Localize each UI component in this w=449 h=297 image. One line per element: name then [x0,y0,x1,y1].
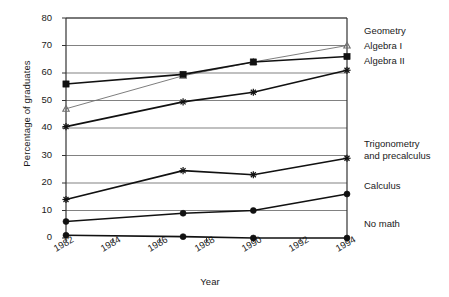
figure-caption [62,289,392,294]
data-point-no-math-1990 [250,235,256,241]
data-point-algebra-ii-1987 [179,98,186,105]
plot-area [0,0,449,297]
data-point-algebra-i-1994 [344,53,350,59]
data-point-no-math-1982 [63,232,69,238]
data-point-algebra-i-1987 [180,71,186,77]
series-line-no-math [66,235,347,238]
series-line-calculus [66,194,347,222]
data-point-trigonometry-and-precalculus-1990 [250,171,257,178]
chart-figure: Percentage of graduates 80 70 60 50 40 3… [0,0,449,297]
series-line-trigonometry-and-precalculus [66,158,347,199]
data-point-calculus-1987 [180,210,186,216]
data-point-algebra-i-1990 [250,59,256,65]
data-point-algebra-ii-1982 [62,123,69,130]
data-point-calculus-1994 [344,191,350,197]
data-point-no-math-1994 [344,235,350,241]
data-point-calculus-1990 [250,208,256,214]
data-point-algebra-ii-1990 [250,89,257,96]
data-point-no-math-1987 [180,234,186,240]
data-point-calculus-1982 [63,219,69,225]
data-point-trigonometry-and-precalculus-1987 [179,167,186,174]
series-line-algebra-ii [66,70,347,126]
data-point-trigonometry-and-precalculus-1982 [62,196,69,203]
data-point-algebra-i-1982 [63,81,69,87]
